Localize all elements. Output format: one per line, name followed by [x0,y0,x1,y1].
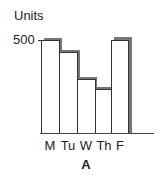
y-tick-500: 500 [13,32,35,47]
x-label-w: W [76,138,96,153]
bar-m [41,40,60,133]
x-label-tu: Tu [58,138,78,153]
bar-th [95,89,112,133]
x-axis [40,133,154,134]
bar-f [111,40,129,133]
bar-tu [59,52,78,133]
y-axis-label: Units [14,8,44,23]
x-label-m: M [40,138,60,153]
x-label-f: F [110,138,130,153]
bar-w [77,79,96,133]
chart-caption: A [78,157,94,172]
